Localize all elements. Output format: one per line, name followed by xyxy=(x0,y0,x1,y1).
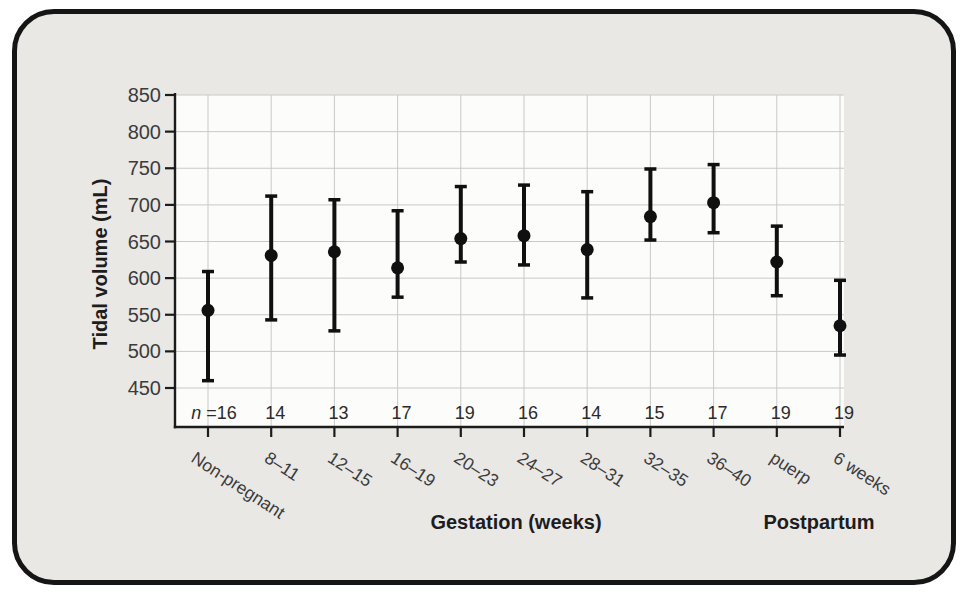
n-count-label: n =16 xyxy=(191,403,237,423)
y-axis-title: Tidal volume (mL) xyxy=(89,179,112,350)
n-count-label: 17 xyxy=(708,403,728,423)
n-count-label: 14 xyxy=(265,403,285,423)
y-tick-label: 650 xyxy=(128,231,161,253)
mean-point xyxy=(202,304,215,317)
x-category-label: 12–15 xyxy=(324,448,376,491)
x-category-label: 24–27 xyxy=(514,448,566,491)
mean-point xyxy=(834,319,847,332)
n-count-label: 17 xyxy=(392,403,412,423)
x-category-label: 6 weeks xyxy=(830,448,895,500)
mean-point xyxy=(644,210,657,223)
n-count-label: 19 xyxy=(834,403,854,423)
n-count-label: 13 xyxy=(328,403,348,423)
y-tick-label: 550 xyxy=(128,304,161,326)
x-category-label: 16–19 xyxy=(387,448,439,491)
y-tick-label: 600 xyxy=(128,267,161,289)
mean-point xyxy=(707,196,720,209)
x-category-label: 8–11 xyxy=(261,448,303,485)
x-category-label: 28–31 xyxy=(577,448,629,491)
mean-point xyxy=(770,256,783,269)
mean-point xyxy=(581,243,594,256)
mean-point xyxy=(328,245,341,258)
y-tick-label: 450 xyxy=(128,377,161,399)
y-tick-label: 850 xyxy=(128,84,161,106)
y-tick-label: 750 xyxy=(128,157,161,179)
x-category-label: 20–23 xyxy=(451,448,503,491)
mean-point xyxy=(518,229,531,242)
figure-page: 450500550600650700750800850n =1614131719… xyxy=(0,0,968,596)
tidal-volume-chart: 450500550600650700750800850n =1614131719… xyxy=(0,0,968,596)
x-category-label: 32–35 xyxy=(640,448,692,491)
x-category-label: 36–40 xyxy=(703,448,755,491)
y-tick-label: 500 xyxy=(128,340,161,362)
n-count-label: 19 xyxy=(455,403,475,423)
mean-point xyxy=(454,232,467,245)
y-tick-label: 800 xyxy=(128,121,161,143)
x-category-label: puerp xyxy=(767,448,815,489)
x-axis-title-postpartum: Postpartum xyxy=(763,511,874,534)
plot-area xyxy=(175,95,844,427)
mean-point xyxy=(265,249,278,262)
n-count-label: 19 xyxy=(771,403,791,423)
n-count-label: 15 xyxy=(644,403,664,423)
x-axis-title-gestation: Gestation (weeks) xyxy=(430,511,601,534)
y-tick-label: 700 xyxy=(128,194,161,216)
mean-point xyxy=(391,261,404,274)
n-count-label: 14 xyxy=(581,403,601,423)
n-count-label: 16 xyxy=(518,403,538,423)
